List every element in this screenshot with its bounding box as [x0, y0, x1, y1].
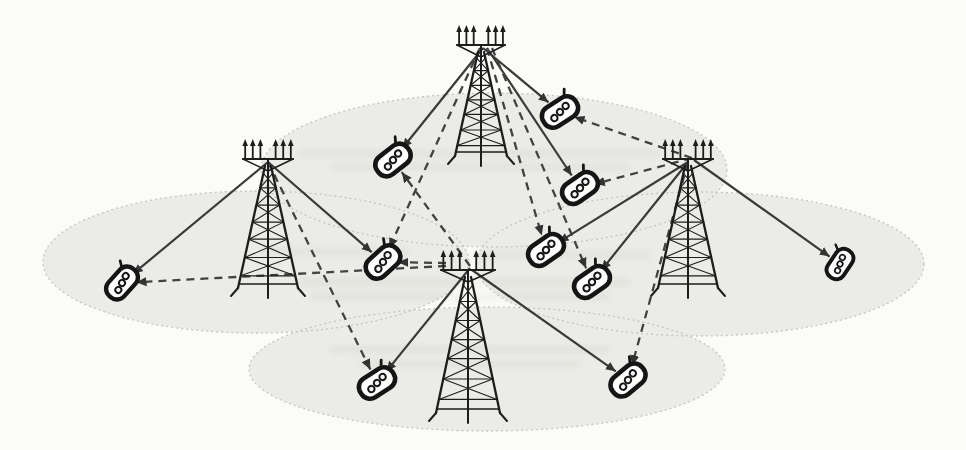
- network-diagram: [0, 0, 966, 450]
- cellular-network-figure: [0, 0, 966, 450]
- cell-bottom-area: [249, 307, 725, 431]
- cell-fill-layer: [43, 93, 924, 431]
